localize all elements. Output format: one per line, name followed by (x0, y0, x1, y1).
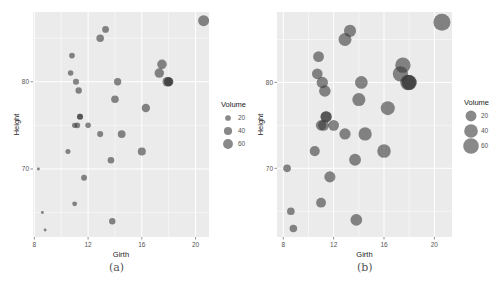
legend-entry-label: 20 (481, 112, 489, 119)
plot-panel (277, 12, 452, 237)
data-point (290, 225, 298, 233)
data-point (155, 68, 164, 77)
legend-title: Volume (221, 100, 246, 109)
data-point (350, 214, 362, 226)
data-point (313, 51, 324, 62)
data-point (319, 85, 331, 97)
x-axis-label: Girth (113, 250, 129, 259)
x-tick-label: 12 (84, 241, 92, 248)
data-point (81, 175, 87, 181)
data-point (108, 157, 115, 164)
data-point (69, 53, 75, 59)
data-point (395, 58, 410, 73)
data-point (349, 154, 361, 166)
panel-a-caption: (a) (109, 261, 124, 274)
x-axis-label: Girth (356, 250, 372, 259)
panel-b-caption: (b) (357, 261, 373, 274)
data-point (75, 87, 81, 93)
data-point (37, 167, 40, 170)
x-tick-label: 12 (330, 241, 338, 248)
data-point (41, 211, 44, 214)
x-tick-label: 20 (431, 241, 439, 248)
data-point (142, 104, 150, 112)
data-point (358, 127, 371, 140)
data-point (321, 111, 332, 122)
data-point (283, 164, 291, 172)
data-point (381, 101, 395, 115)
data-point (109, 218, 115, 224)
data-point (316, 198, 326, 208)
data-point (97, 131, 103, 137)
data-point (68, 70, 74, 76)
legend-entry-label: 40 (481, 127, 489, 134)
data-point (102, 26, 109, 33)
scatter-plot-b: 81216207080GirthHeightVolume204060 (252, 0, 504, 265)
data-point (310, 146, 320, 156)
y-axis-label: Height (12, 113, 21, 136)
data-point (118, 130, 126, 138)
legend-entry-label: 60 (238, 140, 246, 147)
plot-panel (33, 12, 209, 237)
data-point (355, 76, 368, 89)
y-axis-label: Height (256, 113, 265, 136)
data-point (157, 60, 167, 70)
data-point (402, 75, 417, 90)
data-point (111, 95, 119, 103)
x-tick-label: 8 (281, 241, 285, 248)
data-point (73, 79, 79, 85)
data-point (72, 201, 77, 206)
data-point (433, 14, 450, 31)
data-point (44, 229, 47, 232)
data-point (65, 149, 70, 154)
legend-entry-label: 40 (238, 127, 246, 134)
chart-panel-b: 81216207080GirthHeightVolume204060 (252, 0, 504, 265)
y-tick-label: 80 (266, 79, 274, 86)
data-point (77, 114, 83, 120)
data-point (74, 123, 80, 129)
data-point (138, 148, 146, 156)
legend-entry-label: 60 (481, 142, 489, 149)
x-tick-label: 16 (380, 241, 388, 248)
data-point (344, 25, 356, 37)
legend: Volume204060 (221, 100, 246, 149)
scatter-plot-a: 81216207080GirthHeightVolume204060 (0, 0, 252, 265)
legend: Volume204060 (463, 98, 489, 154)
y-tick-label: 70 (22, 165, 30, 172)
x-tick-label: 20 (192, 241, 200, 248)
data-point (339, 128, 350, 139)
legend-entry-label: 20 (238, 114, 246, 121)
y-tick-label: 70 (266, 165, 274, 172)
data-point (164, 77, 173, 86)
data-point (85, 123, 91, 129)
chart-panel-a: 81216207080GirthHeightVolume204060 (0, 0, 252, 265)
data-point (324, 171, 335, 182)
data-point (114, 78, 121, 85)
legend-title: Volume (464, 98, 489, 107)
x-tick-label: 16 (138, 241, 146, 248)
data-point (377, 144, 390, 157)
x-tick-label: 8 (33, 241, 37, 248)
data-point (96, 34, 104, 42)
data-point (287, 207, 295, 215)
data-point (352, 93, 365, 106)
data-point (198, 15, 209, 26)
data-point (328, 120, 339, 131)
y-tick-label: 80 (22, 78, 30, 85)
